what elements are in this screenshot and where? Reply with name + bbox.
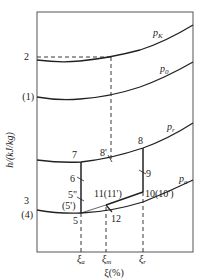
y-axis-label: h/(kJ/kg) <box>4 132 16 168</box>
point-label-8: 8 <box>138 135 143 146</box>
curve-pk <box>37 25 193 62</box>
point-label-5p: (5') <box>62 200 75 212</box>
point-label-5: 5 <box>73 215 78 226</box>
point-label-7: 7 <box>72 149 77 160</box>
x-tick-xir: ξr <box>139 253 146 266</box>
x-axis-label: ξ(%) <box>104 267 123 279</box>
curve-label-pr: pr <box>166 121 175 134</box>
point-label-12: 12 <box>111 213 121 224</box>
curve-label-p0: p0 <box>159 63 169 76</box>
point-label-10: 10(10') <box>145 188 173 200</box>
x-tick-xia: ξa <box>77 253 85 266</box>
x-tick-xim: ξm <box>102 253 111 266</box>
point-label-11: 11(11') <box>94 188 122 200</box>
point-label-9: 9 <box>146 168 151 179</box>
point-label-8p: 8' <box>100 147 107 158</box>
curve-p0 <box>37 62 193 100</box>
curve-label-pk: pK <box>152 27 163 40</box>
label-3: 3 <box>24 195 29 206</box>
point-label-6: 6 <box>70 173 75 184</box>
label-4: (4) <box>21 209 33 221</box>
point-label-5pp: 5" <box>68 189 77 200</box>
label-1: (1) <box>22 91 34 103</box>
enthalpy-concentration-diagram: 2 (1) 3 (4) h/(kJ/kg) pK p0 pr pa 7 8' 8… <box>0 0 198 280</box>
label-2: 2 <box>24 51 29 62</box>
